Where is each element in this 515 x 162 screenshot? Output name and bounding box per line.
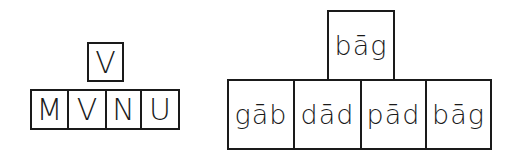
letter-tile: M — [30, 89, 69, 130]
tile-text: dād — [301, 99, 355, 130]
tile-text: bāg — [335, 30, 388, 61]
tile-text: V — [95, 45, 116, 80]
word-tile: pād — [360, 79, 427, 150]
letter-tile: N — [105, 89, 142, 130]
word-top-tile: bāg — [327, 10, 395, 81]
letter-tile: V — [67, 89, 107, 130]
word-tile: gāb — [227, 79, 295, 150]
tile-text: M — [37, 92, 63, 127]
tile-text: N — [112, 92, 134, 127]
tile-text: gāb — [235, 99, 288, 130]
word-tile: bāg — [425, 79, 492, 150]
letter-top-tile: V — [87, 42, 124, 82]
word-tile: dād — [293, 79, 362, 150]
tile-text: pād — [367, 99, 421, 130]
tile-text: bāg — [432, 99, 485, 130]
tile-text: U — [149, 92, 171, 127]
tile-text: V — [77, 92, 98, 127]
letter-tile: U — [140, 89, 180, 130]
